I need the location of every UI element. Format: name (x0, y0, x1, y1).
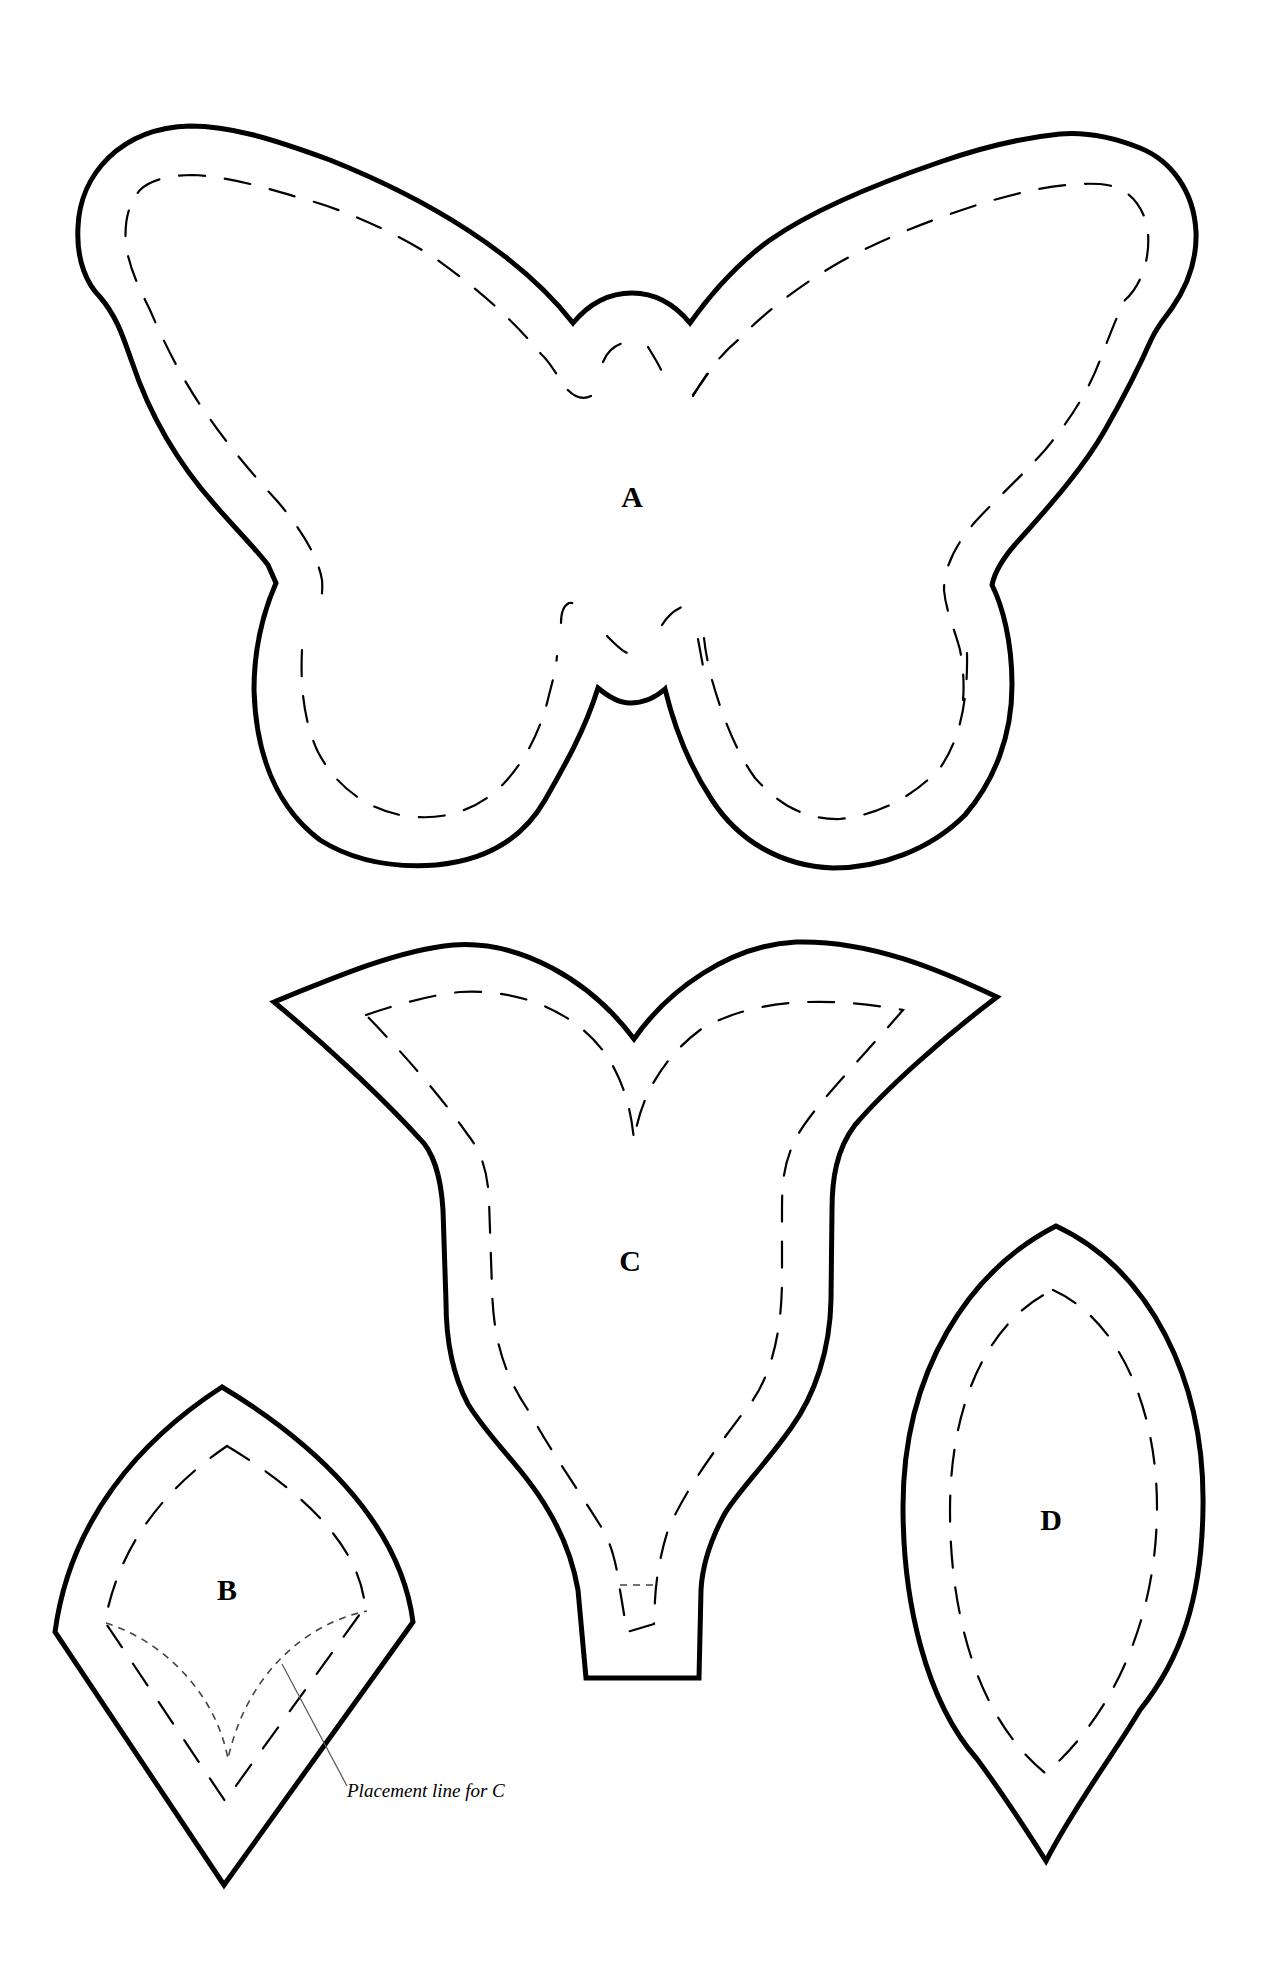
piece-a-label: A (621, 480, 643, 513)
pattern-sheet: A C B Placement line for C D (0, 0, 1270, 1968)
piece-b-label: B (217, 1573, 237, 1606)
placement-line-note: Placement line for C (346, 1780, 505, 1801)
piece-d-cut-line (903, 1226, 1203, 1861)
piece-b-leaf: B Placement line for C (55, 1387, 505, 1885)
piece-d-label: D (1040, 1503, 1062, 1536)
piece-a-butterfly: A (78, 126, 1196, 868)
piece-d-leaf: D (903, 1226, 1203, 1861)
piece-b-cut-line (55, 1387, 413, 1885)
piece-c-label: C (619, 1244, 641, 1277)
